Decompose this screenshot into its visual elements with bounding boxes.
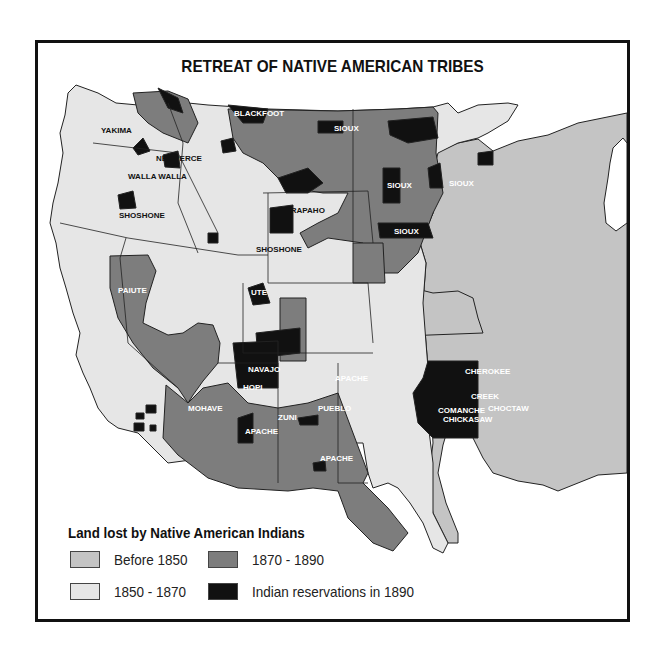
tribe-label: SPOKANE xyxy=(156,74,196,83)
tribe-label: HOPI xyxy=(243,383,263,392)
legend-label: Before 1850 xyxy=(114,551,188,568)
legend: Land lost by Native American Indians Bef… xyxy=(68,525,488,615)
tribe-label: SIOUX xyxy=(449,179,475,188)
legend-item-before-1850: Before 1850 xyxy=(70,551,196,568)
tribe-label: SIOUX xyxy=(387,181,413,190)
tribe-label: MOHAVE xyxy=(188,404,223,413)
legend-item-1870-1890: 1870 - 1890 xyxy=(208,551,332,568)
tribe-label: ARAPAHO xyxy=(285,206,325,215)
tribe-label: APACHE xyxy=(335,374,369,383)
tribe-label: WALLA WALLA xyxy=(128,172,187,181)
tribe-label: PUEBLO xyxy=(318,404,351,413)
map-frame: RETREAT OF NATIVE AMERICAN TRIBES xyxy=(35,40,630,622)
tribe-label: PAIUTE xyxy=(118,286,147,295)
legend-item-reservations-1890: Indian reservations in 1890 xyxy=(208,583,432,600)
tribe-label: NAVAJO xyxy=(248,365,280,374)
tribe-label: APACHE xyxy=(245,427,279,436)
tribe-label: UTE xyxy=(251,288,268,297)
tribe-label: BLACKFOOT xyxy=(234,109,284,118)
swatch-reservations-1890 xyxy=(208,583,238,600)
legend-item-1850-1870: 1850 - 1870 xyxy=(70,583,194,600)
tribe-label: YAKIMA xyxy=(101,126,132,135)
tribe-label: CHEROKEE xyxy=(465,367,511,376)
region-1870-1890-nebraska xyxy=(353,243,385,283)
swatch-1870-1890 xyxy=(208,551,238,568)
tribe-label: CHOCTAW xyxy=(488,404,529,413)
tribe-label: SHOSHONE xyxy=(119,211,165,220)
tribe-label: COMANCHE xyxy=(438,406,486,415)
swatch-before-1850 xyxy=(70,551,100,568)
tribe-label: CREEK xyxy=(471,392,499,401)
legend-label: 1850 - 1870 xyxy=(114,583,186,600)
tribe-label: SIOUX xyxy=(394,227,420,236)
tribe-label: CHICKASAW xyxy=(443,415,493,424)
tribe-label: NEZ PERCE xyxy=(156,154,202,163)
legend-title: Land lost by Native American Indians xyxy=(68,525,454,541)
tribe-label: SHOSHONE xyxy=(256,245,302,254)
legend-label: 1870 - 1890 xyxy=(252,551,324,568)
legend-label: Indian reservations in 1890 xyxy=(252,583,414,600)
tribe-label: SIOUX xyxy=(334,124,360,133)
tribe-label: SIOUX xyxy=(458,86,484,95)
swatch-1850-1870 xyxy=(70,583,100,600)
tribe-label: ZUNI xyxy=(278,413,297,422)
tribe-label: APACHE xyxy=(320,454,354,463)
